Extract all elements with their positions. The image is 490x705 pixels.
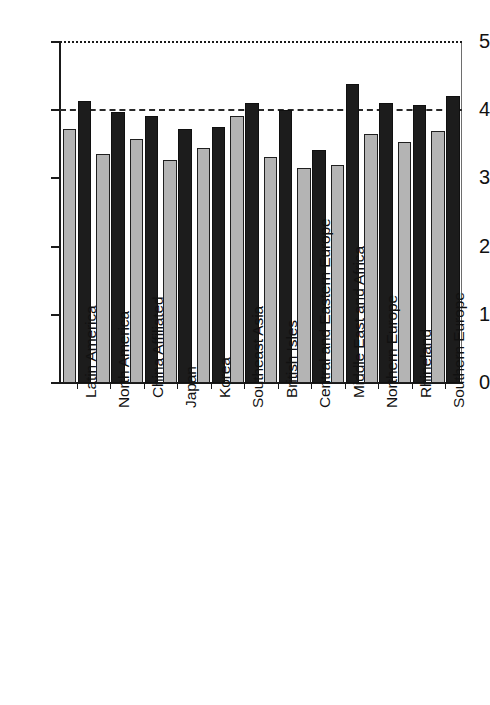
x-tick-11	[445, 383, 446, 389]
x-axis-label-3: Japan	[183, 366, 199, 408]
x-axis-label-0: Latin America	[83, 305, 99, 398]
bar-gray-0	[63, 129, 77, 383]
x-tick-9	[378, 383, 379, 389]
x-tick-3	[177, 383, 178, 389]
bar-chart: 012345 Latin AmericaNorth AmericaChina A…	[0, 0, 490, 705]
y-tick-4	[51, 109, 60, 111]
bar-black-4	[212, 127, 226, 383]
x-axis-label-6: British Isles	[284, 320, 300, 398]
x-axis-label-11: Southern Europe	[451, 292, 467, 408]
y-tick-0	[51, 382, 60, 384]
x-axis-label-5: Southeast Asia	[250, 306, 266, 408]
x-axis-label-10: Rhineland	[418, 329, 434, 398]
bar-black-3	[178, 129, 192, 383]
y-tick-5	[51, 41, 60, 43]
x-axis-label-7: Central and Eastern Europe	[317, 218, 333, 408]
x-tick-1	[110, 383, 111, 389]
x-tick-6	[278, 383, 279, 389]
x-axis-label-8: Middle East and Africa	[351, 246, 367, 398]
y-tick-1	[51, 314, 60, 316]
x-tick-8	[345, 383, 346, 389]
x-tick-10	[412, 383, 413, 389]
x-tick-5	[244, 383, 245, 389]
x-axis-label-1: North America	[116, 311, 132, 408]
x-tick-4	[211, 383, 212, 389]
bar-gray-5	[230, 116, 244, 383]
x-axis-label-2: China Affiliated	[150, 296, 166, 398]
x-axis-label-4: Korea	[217, 357, 233, 398]
x-tick-0	[77, 383, 78, 389]
x-tick-7	[311, 383, 312, 389]
y-tick-2	[51, 246, 60, 248]
x-axis-label-9: Northern Europe	[384, 295, 400, 408]
bar-gray-4	[197, 148, 211, 383]
x-tick-2	[144, 383, 145, 389]
y-tick-3	[51, 177, 60, 179]
